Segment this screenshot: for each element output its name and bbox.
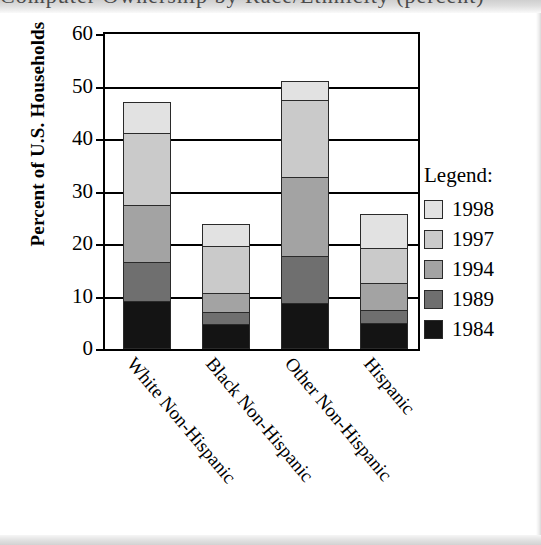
legend-swatch-1998 <box>424 200 443 219</box>
bar-hispanic[interactable] <box>360 215 408 349</box>
legend-title: Legend: <box>424 163 539 188</box>
bar-segment-1994[interactable] <box>360 283 408 311</box>
y-axis-tick <box>96 297 105 299</box>
bar-other-non-hispanic[interactable] <box>281 82 329 349</box>
legend-swatch-1989 <box>424 290 443 309</box>
legend-item-1998[interactable]: 1998 <box>424 197 539 221</box>
y-axis-tick <box>96 244 105 246</box>
bar-segment-1989[interactable] <box>281 255 329 304</box>
legend-label-1994: 1994 <box>452 259 494 280</box>
bar-segment-1994[interactable] <box>202 293 250 313</box>
legend-item-1994[interactable]: 1994 <box>424 257 539 281</box>
bar-segment-1984[interactable] <box>281 302 329 349</box>
y-axis-tick <box>96 87 105 89</box>
y-axis-tick-label: 60 <box>33 21 93 46</box>
bar-segment-1984[interactable] <box>123 300 171 349</box>
legend-item-1997[interactable]: 1997 <box>424 227 539 251</box>
bar-white-non-hispanic[interactable] <box>123 104 171 349</box>
bar-segment-1994[interactable] <box>123 205 171 264</box>
legend-label-1989: 1989 <box>452 289 494 310</box>
legend: Legend: 19981997199419891984 <box>424 163 539 347</box>
bar-segment-1994[interactable] <box>281 177 329 257</box>
legend-swatch-1994 <box>424 260 443 279</box>
bars-group <box>105 34 418 349</box>
legend-swatch-1997 <box>424 230 443 249</box>
bar-segment-1984[interactable] <box>202 324 250 349</box>
page-right-edge <box>536 13 541 535</box>
y-axis-tick-label: 20 <box>33 231 93 256</box>
bar-segment-1998[interactable] <box>360 214 408 250</box>
bar-segment-1997[interactable] <box>202 245 250 294</box>
y-axis-tick <box>96 34 105 36</box>
bar-segment-1989[interactable] <box>360 309 408 324</box>
legend-item-1989[interactable]: 1989 <box>424 287 539 311</box>
x-axis-labels: White Non-HispanicBlack Non-HispanicOthe… <box>103 353 420 533</box>
y-axis-tick-label: 0 <box>33 336 93 361</box>
bar-segment-1998[interactable] <box>202 224 250 247</box>
chart-figure: Percent of U.S. Households 0102030405060… <box>0 13 541 535</box>
legend-label-1998: 1998 <box>452 199 494 220</box>
x-axis-label: Hispanic <box>359 353 419 419</box>
page-top-scan-strip: Computer Ownership by Race/Ethnicity (pe… <box>0 0 541 13</box>
plot-area: 0102030405060 <box>103 32 420 351</box>
y-axis-tick-label: 10 <box>33 284 93 309</box>
y-axis-tick <box>96 349 105 351</box>
legend-swatch-1984 <box>424 320 443 339</box>
y-axis-tick-label: 50 <box>33 74 93 99</box>
bar-segment-1984[interactable] <box>360 323 408 349</box>
bar-segment-1998[interactable] <box>281 81 329 101</box>
y-axis-tick-label: 30 <box>33 179 93 204</box>
legend-item-1984[interactable]: 1984 <box>424 317 539 341</box>
y-axis-tick <box>96 192 105 194</box>
legend-items: 19981997199419891984 <box>424 197 539 341</box>
legend-label-1984: 1984 <box>452 319 494 340</box>
clipped-caption-text: Computer Ownership by Race/Ethnicity (pe… <box>0 0 541 9</box>
bar-segment-1989[interactable] <box>202 312 250 326</box>
bar-segment-1998[interactable] <box>123 102 171 133</box>
y-axis-tick-label: 40 <box>33 126 93 151</box>
page-bottom-scan-strip <box>0 535 541 545</box>
bar-segment-1997[interactable] <box>281 100 329 179</box>
y-axis-tick <box>96 139 105 141</box>
legend-label-1997: 1997 <box>452 229 494 250</box>
bar-segment-1997[interactable] <box>123 132 171 206</box>
bar-segment-1989[interactable] <box>123 262 171 302</box>
bar-black-non-hispanic[interactable] <box>202 226 250 349</box>
bar-segment-1997[interactable] <box>360 248 408 285</box>
